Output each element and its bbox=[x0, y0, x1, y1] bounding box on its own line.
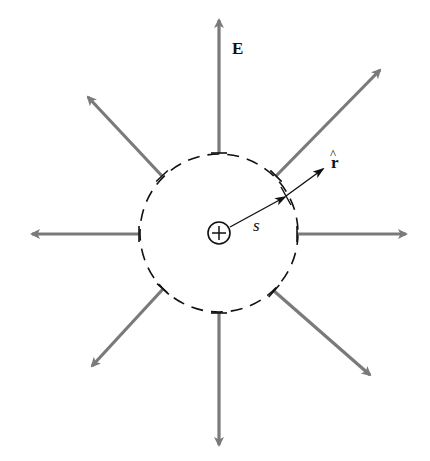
unit-vector-arrow bbox=[286, 169, 323, 196]
field-arrow-up-right bbox=[276, 70, 380, 176]
field-label-E: E bbox=[232, 39, 243, 58]
point-charge bbox=[208, 222, 230, 244]
field-arrow-up-left bbox=[88, 97, 162, 176]
field-arrow-down-left bbox=[92, 289, 163, 366]
field-arrow-down-right bbox=[274, 291, 370, 375]
radius-label-s: s bbox=[253, 216, 260, 235]
radial-vector bbox=[230, 169, 323, 227]
hat-icon: ^ bbox=[330, 146, 336, 161]
field-diagram: E s r ^ bbox=[0, 0, 430, 461]
